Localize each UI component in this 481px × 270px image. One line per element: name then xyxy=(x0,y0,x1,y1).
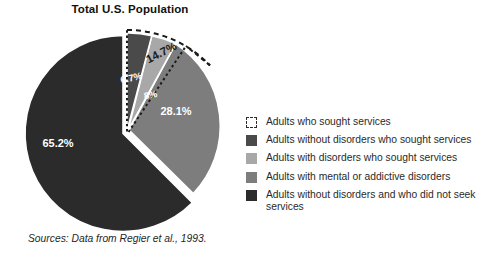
legend-item-mental-addictive-disorders: Adults with mental or addictive disorder… xyxy=(246,171,478,184)
pie-chart-graphic: 14.7% 6.7% 8% 28.1% 65.2% xyxy=(0,18,260,248)
legend-item-no-disorders-sought: Adults without disorders who sought serv… xyxy=(246,134,478,147)
legend-label: Adults with disorders who sought service… xyxy=(266,152,457,165)
legend-item-disorders-sought: Adults with disorders who sought service… xyxy=(246,152,478,165)
legend-label: Adults with mental or addictive disorder… xyxy=(266,171,450,184)
chart-legend: Adults who sought services Adults withou… xyxy=(246,116,478,220)
slice-label-65-2: 65.2% xyxy=(42,137,73,149)
dashed-outline-swatch xyxy=(246,117,257,128)
pie-chart-figure: Total U.S. Population 14.7% 6.7% 8% 28.1… xyxy=(0,0,481,270)
legend-label: Adults without disorders and who did not… xyxy=(266,189,478,214)
legend-label: Adults who sought services xyxy=(266,116,391,129)
slice-label-28-1: 28.1% xyxy=(160,105,191,117)
near-black-swatch xyxy=(246,190,257,201)
legend-item-sought-services: Adults who sought services xyxy=(246,116,478,129)
chart-title: Total U.S. Population xyxy=(40,3,220,15)
medium-gray-swatch xyxy=(246,172,257,183)
legend-item-no-disorders-not-sought: Adults without disorders and who did not… xyxy=(246,189,478,214)
light-gray-swatch xyxy=(246,153,257,164)
dark-gray-swatch xyxy=(246,135,257,146)
legend-label: Adults without disorders who sought serv… xyxy=(266,134,471,147)
source-note: Sources: Data from Regier et al., 1993. xyxy=(28,233,207,244)
